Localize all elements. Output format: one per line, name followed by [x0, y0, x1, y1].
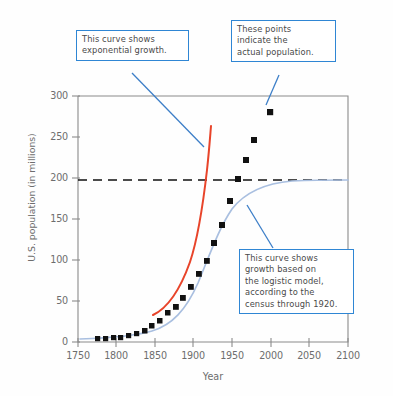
annotation-line: These points — [237, 24, 330, 35]
data-point — [227, 198, 233, 204]
annotation-line: This curve shows — [245, 253, 348, 264]
leader-line-exponential — [132, 73, 204, 147]
annotation-line: census through 1920. — [245, 299, 348, 310]
annotation-exponential-growth: This curve shows exponential growth. — [76, 30, 189, 61]
x-axis-title: Year — [78, 371, 348, 382]
annotation-line: actual population. — [237, 47, 330, 58]
annotation-line: exponential growth. — [82, 45, 183, 56]
data-point — [118, 335, 123, 340]
data-point — [165, 310, 171, 316]
exponential-growth-curve — [153, 126, 211, 315]
data-point — [235, 176, 241, 182]
x-tick-label-1900: 1900 — [171, 350, 215, 361]
annotation-line: the logistic model, — [245, 276, 348, 287]
data-point — [188, 284, 194, 290]
x-tick-label-2100: 2100 — [326, 350, 370, 361]
data-point — [219, 222, 225, 228]
leader-line-actual-points — [266, 75, 279, 105]
annotation-logistic-model: This curve shows growth based on the log… — [239, 249, 354, 314]
leader-lines — [132, 73, 279, 248]
data-point — [142, 328, 148, 334]
data-point — [95, 336, 100, 341]
data-point — [103, 336, 108, 341]
data-point — [173, 304, 179, 310]
y-tick-label-300: 300 — [28, 90, 68, 101]
y-axis-title: U.S. population (in millions) — [26, 123, 37, 273]
data-point — [211, 240, 217, 246]
x-tick-label-2050: 2050 — [287, 350, 331, 361]
y-tick-label-0: 0 — [28, 336, 68, 347]
data-point — [196, 271, 202, 277]
data-point — [204, 258, 210, 264]
data-point — [251, 137, 257, 143]
data-point — [134, 331, 139, 336]
annotation-line: This curve shows — [82, 34, 183, 45]
y-tick-label-50: 50 — [28, 295, 68, 306]
data-point — [267, 109, 273, 115]
leader-line-logistic — [247, 205, 273, 248]
data-point — [180, 295, 186, 301]
data-point — [157, 318, 163, 324]
annotation-line: growth based on — [245, 264, 348, 275]
data-point — [149, 323, 155, 329]
population-growth-chart: 300 250 200 150 100 50 0 1750 1800 1850 … — [0, 0, 393, 396]
data-point — [111, 335, 116, 340]
data-point — [126, 333, 131, 338]
annotation-actual-population: These points indicate the actual populat… — [231, 20, 336, 62]
annotation-line: indicate the — [237, 35, 330, 46]
x-tick-label-1950: 1950 — [210, 350, 254, 361]
x-tick-label-1800: 1800 — [94, 350, 138, 361]
annotation-line: according to the — [245, 287, 348, 298]
y-axis-ticks — [72, 96, 80, 342]
data-point — [243, 157, 249, 163]
